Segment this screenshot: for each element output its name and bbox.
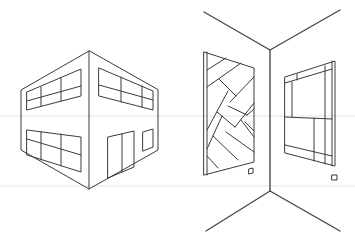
panel-face <box>204 52 254 175</box>
ceiling-edge-right <box>270 10 340 50</box>
left-upper-window-band <box>27 69 81 110</box>
floor-edge-right <box>270 191 340 231</box>
right-wall-panel <box>285 61 335 166</box>
building <box>21 51 158 189</box>
left-wall-panel <box>204 52 254 175</box>
left-lower-window-band <box>27 130 81 172</box>
small-window <box>143 129 153 151</box>
right-outlet-icon <box>332 175 337 180</box>
floor-edge-left <box>206 191 270 231</box>
room-corner <box>204 10 340 231</box>
left-outlet-icon <box>249 168 253 174</box>
ceiling-edge-left <box>204 12 270 50</box>
perspective-illustration <box>0 0 355 245</box>
right-upper-window-band <box>99 68 153 110</box>
